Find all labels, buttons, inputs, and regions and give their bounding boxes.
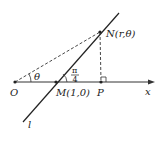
label-P: P: [96, 87, 104, 98]
theta-arc: [29, 74, 31, 82]
segment-ON-dashed: [15, 32, 100, 82]
diagram-canvas: O M(1,0) P N(r,θ) x l θ π 4: [0, 0, 164, 141]
segment-NP-dashed: [100, 32, 101, 82]
label-x-axis: x: [145, 86, 151, 97]
label-M: M(1,0): [55, 87, 90, 98]
point-O: [13, 80, 16, 83]
label-pi-numerator: π: [72, 66, 77, 75]
label-N: N(r,θ): [105, 28, 136, 39]
label-theta: θ: [34, 71, 40, 82]
label-O: O: [10, 87, 18, 98]
x-axis-arrow-icon: [148, 80, 155, 85]
point-M: [54, 80, 57, 83]
point-P: [99, 80, 102, 83]
label-line-l: l: [28, 119, 31, 130]
line-l: [23, 13, 119, 122]
label-pi-denominator: 4: [73, 75, 78, 84]
point-N: [98, 30, 101, 33]
